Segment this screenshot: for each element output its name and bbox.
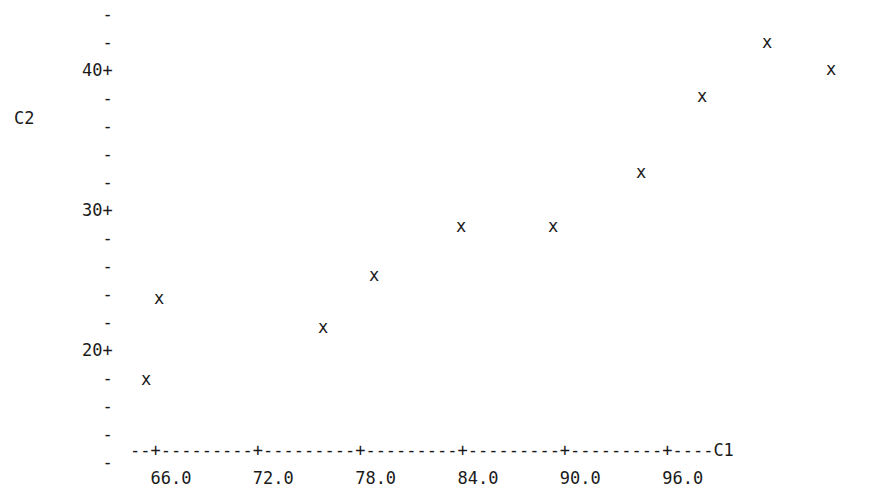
y-axis-minor-tick: - (82, 448, 113, 476)
data-point-marker: x (548, 212, 558, 240)
data-point-marker: x (456, 212, 466, 240)
y-axis-minor-tick: - (82, 420, 113, 448)
y-axis: - -40+ - - - -30+ - - - -20+ - - - - (82, 0, 113, 476)
data-points-layer: xxxxxxxxxx (0, 0, 886, 498)
data-point-marker: x (318, 313, 328, 341)
data-point-marker: x (141, 365, 151, 393)
y-axis-minor-tick: - (82, 252, 113, 280)
y-axis-minor-tick: - (82, 140, 113, 168)
data-point-marker: x (762, 28, 772, 56)
y-axis-tick-40: 40+ (82, 56, 113, 84)
y-axis-minor-tick: - (82, 224, 113, 252)
y-axis-variable-label: C2 (14, 104, 34, 132)
data-point-marker: x (697, 82, 707, 110)
x-axis-tick-labels: 66.0 72.0 78.0 84.0 90.0 96.0 (130, 464, 703, 492)
y-axis-tick-30: 30+ (82, 196, 113, 224)
data-point-marker: x (369, 261, 379, 289)
data-point-marker: x (826, 55, 836, 83)
y-axis-minor-tick: - (82, 112, 113, 140)
y-axis-minor-tick: - (82, 280, 113, 308)
y-axis-tick-20: 20+ (82, 336, 113, 364)
data-point-marker: x (154, 284, 164, 312)
y-axis-minor-tick: - (82, 308, 113, 336)
data-point-marker: x (636, 158, 646, 186)
y-axis-minor-tick: - (82, 364, 113, 392)
x-axis-rule: --+---------+---------+---------+-------… (130, 436, 734, 464)
y-axis-minor-tick: - (82, 0, 113, 28)
y-axis-minor-tick: - (82, 28, 113, 56)
y-axis-minor-tick: - (82, 84, 113, 112)
y-axis-minor-tick: - (82, 168, 113, 196)
y-axis-minor-tick: - (82, 392, 113, 420)
character-plot-canvas: C2 - -40+ - - - -30+ - - - -20+ - - - - … (0, 0, 886, 498)
